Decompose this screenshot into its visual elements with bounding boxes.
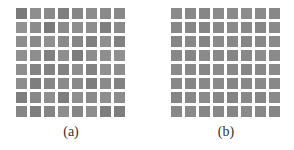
filter-tile [199, 8, 210, 19]
filter-tile [199, 36, 210, 47]
filter-tile [72, 36, 83, 47]
filter-tile [255, 8, 266, 19]
filter-tile [199, 78, 210, 89]
filter-tile [171, 64, 182, 75]
filter-tile [114, 106, 125, 117]
filter-tile [86, 78, 97, 89]
filter-tile [227, 92, 238, 103]
filter-tile [100, 106, 111, 117]
filter-tile [44, 36, 55, 47]
filter-tile [199, 106, 210, 117]
filter-tile [241, 36, 252, 47]
filter-tile [114, 78, 125, 89]
filter-tile [58, 78, 69, 89]
filter-tile [58, 92, 69, 103]
filter-tile [44, 64, 55, 75]
filter-tile [16, 78, 27, 89]
filter-tile [255, 106, 266, 117]
filter-tile [213, 106, 224, 117]
filter-tile [86, 92, 97, 103]
filter-tile [185, 64, 196, 75]
filter-tile [185, 8, 196, 19]
filter-tile [30, 78, 41, 89]
filter-tile [114, 92, 125, 103]
filter-tile [44, 78, 55, 89]
filter-tile [30, 8, 41, 19]
filter-tile [58, 36, 69, 47]
filter-tile [255, 50, 266, 61]
filter-tile [213, 8, 224, 19]
filter-tile [72, 64, 83, 75]
filter-tile [241, 8, 252, 19]
filter-tile [227, 36, 238, 47]
filter-tile [171, 106, 182, 117]
filter-tile [58, 22, 69, 33]
filter-tile [255, 78, 266, 89]
filter-tile [241, 22, 252, 33]
filter-tile [171, 78, 182, 89]
filter-tile [114, 22, 125, 33]
filter-tile [86, 50, 97, 61]
filter-tile [227, 8, 238, 19]
filter-tile [16, 106, 27, 117]
filter-tile [30, 64, 41, 75]
filter-tile [269, 8, 280, 19]
filter-tile [114, 8, 125, 19]
filter-tile [199, 64, 210, 75]
filter-tile [227, 22, 238, 33]
filter-tile [171, 50, 182, 61]
filter-tile [241, 92, 252, 103]
filter-tile [86, 22, 97, 33]
filter-tile [269, 36, 280, 47]
filter-tile [72, 92, 83, 103]
panel-caption-b: (b) [196, 124, 256, 140]
filter-tile [100, 36, 111, 47]
panel-caption-a: (a) [41, 124, 101, 140]
filter-tile [241, 78, 252, 89]
filter-tile [171, 92, 182, 103]
filter-tile [100, 64, 111, 75]
filter-tile [16, 36, 27, 47]
filter-tile [213, 36, 224, 47]
filter-tile [16, 92, 27, 103]
filter-tile [16, 22, 27, 33]
filter-tile [72, 50, 83, 61]
filter-tile [269, 22, 280, 33]
filter-tile [16, 8, 27, 19]
filter-tile [30, 92, 41, 103]
filter-tile [86, 36, 97, 47]
filter-tile [213, 50, 224, 61]
filter-tile [30, 22, 41, 33]
filter-tile [100, 92, 111, 103]
filter-grid-a [16, 8, 126, 118]
filter-tile [171, 8, 182, 19]
filter-tile [269, 50, 280, 61]
filter-tile [100, 22, 111, 33]
filter-tile [30, 106, 41, 117]
filter-tile [185, 78, 196, 89]
filter-tile [269, 78, 280, 89]
filter-tile [86, 8, 97, 19]
filter-tile [185, 50, 196, 61]
filter-tile [241, 50, 252, 61]
filter-tile [227, 64, 238, 75]
filter-tile [44, 92, 55, 103]
filter-tile [213, 22, 224, 33]
filter-grid-b [171, 8, 281, 118]
filter-tile [269, 92, 280, 103]
filter-tile [227, 50, 238, 61]
filter-tile [241, 64, 252, 75]
filter-tile [114, 36, 125, 47]
filter-tile [44, 22, 55, 33]
filter-tile [44, 106, 55, 117]
filter-tile [185, 22, 196, 33]
filter-tile [100, 8, 111, 19]
filter-tile [72, 106, 83, 117]
filter-tile [114, 50, 125, 61]
filter-tile [16, 64, 27, 75]
filter-tile [30, 36, 41, 47]
filter-tile [16, 50, 27, 61]
filter-tile [269, 106, 280, 117]
filter-tile [58, 8, 69, 19]
filter-tile [199, 22, 210, 33]
